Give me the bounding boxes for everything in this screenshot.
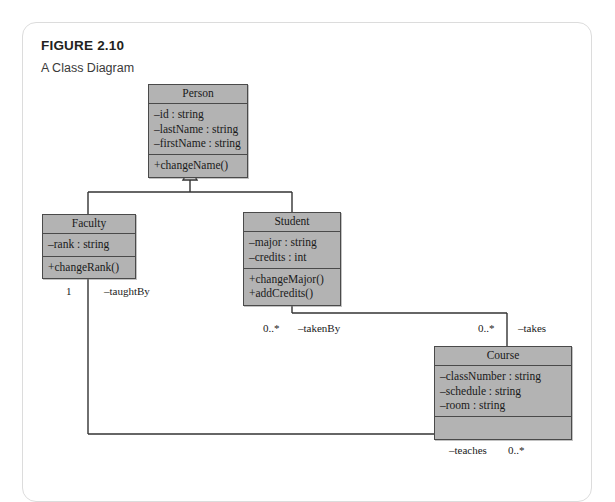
class-operations-student: +changeMajor() +addCredits() [244,269,340,305]
class-operations-course [435,417,571,439]
operation: +changeMajor() [249,272,335,286]
class-attributes-student: –major : string –credits : int [244,232,340,269]
operation: +changeRank() [48,260,130,274]
attribute: –major : string [249,235,335,249]
attribute: –credits : int [249,250,335,264]
label-course-teaches-role: –teaches [449,444,487,456]
class-name-course: Course [435,347,571,366]
class-attributes-person: –id : string –lastName : string –firstNa… [149,104,247,155]
attribute: –id : string [154,107,242,121]
class-attributes-course: –classNumber : string –schedule : string… [435,366,571,417]
attribute: –firstName : string [154,136,242,150]
class-operations-person: +changeName() [149,155,247,176]
uml-class-student[interactable]: Student –major : string –credits : int +… [243,212,341,306]
attribute: –classNumber : string [440,369,566,383]
label-course-takes-role: –takes [518,322,546,334]
class-name-student: Student [244,213,340,232]
class-operations-faculty: +changeRank() [43,257,135,278]
attribute: –lastName : string [154,122,242,136]
label-course-takes-multiplicity: 0..* [478,322,495,334]
label-student-role: –takenBy [298,322,340,334]
uml-class-faculty[interactable]: Faculty –rank : string +changeRank() [42,214,136,279]
operation: +changeName() [154,158,242,172]
label-faculty-multiplicity: 1 [66,285,72,297]
operation: +addCredits() [249,286,335,300]
class-name-faculty: Faculty [43,215,135,234]
label-student-multiplicity: 0..* [263,322,280,334]
attribute: –schedule : string [440,384,566,398]
label-course-teaches-multiplicity: 0..* [508,444,525,456]
label-faculty-role: –taughtBy [104,285,150,297]
class-name-person: Person [149,85,247,104]
attribute: –rank : string [48,237,130,251]
uml-class-course[interactable]: Course –classNumber : string –schedule :… [434,346,572,440]
uml-class-person[interactable]: Person –id : string –lastName : string –… [148,84,248,178]
attribute: –room : string [440,398,566,412]
class-attributes-faculty: –rank : string [43,234,135,256]
